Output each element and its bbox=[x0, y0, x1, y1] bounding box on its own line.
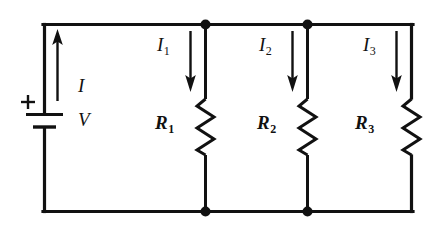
label-current-I1-base: I bbox=[157, 34, 163, 55]
node-dot-bottom-2 bbox=[303, 207, 313, 217]
label-resistor-R1-base: R bbox=[155, 112, 168, 133]
label-current-I1: I1 bbox=[157, 35, 169, 54]
label-current-I2-subscript: 2 bbox=[266, 44, 272, 58]
node-dot-top-2 bbox=[303, 20, 313, 30]
label-resistor-R3-base: R bbox=[355, 112, 368, 133]
label-current-I: I bbox=[78, 76, 84, 95]
label-resistor-R3: R3 bbox=[355, 113, 374, 132]
label-resistor-R3-subscript: 3 bbox=[368, 122, 374, 136]
resistor-symbol-R2 bbox=[299, 99, 316, 155]
label-voltage-V: V bbox=[78, 110, 90, 129]
label-current-I3-base: I bbox=[363, 34, 369, 55]
label-resistor-R1-subscript: 1 bbox=[168, 122, 174, 136]
label-current-I1-subscript: 1 bbox=[164, 44, 170, 58]
label-current-I2: I2 bbox=[259, 35, 271, 54]
current-arrow-I3 bbox=[391, 31, 402, 92]
branch-2 bbox=[287, 25, 316, 212]
label-current-I3-subscript: 3 bbox=[370, 44, 376, 58]
label-resistor-R2-base: R bbox=[257, 112, 270, 133]
current-arrow-I2 bbox=[287, 31, 298, 92]
plus-sign-icon bbox=[21, 95, 35, 109]
label-resistor-R2: R2 bbox=[257, 113, 276, 132]
label-resistor-R1: R1 bbox=[155, 113, 174, 132]
resistor-symbol-R1 bbox=[197, 99, 214, 155]
branch-1 bbox=[185, 25, 214, 212]
circuit-diagram-figure: I V I1 I2 I3 R1 R2 R3 bbox=[0, 0, 445, 232]
resistor-symbol-R3 bbox=[403, 99, 420, 155]
current-arrow-I bbox=[52, 29, 63, 101]
node-dot-bottom-1 bbox=[201, 207, 211, 217]
label-resistor-R2-subscript: 2 bbox=[270, 122, 276, 136]
node-dot-top-1 bbox=[201, 20, 211, 30]
circuit-schematic-canvas bbox=[0, 0, 445, 232]
label-current-I2-base: I bbox=[259, 34, 265, 55]
label-current-I3: I3 bbox=[363, 35, 375, 54]
branch-3 bbox=[391, 31, 420, 155]
current-arrow-I1 bbox=[185, 31, 196, 92]
